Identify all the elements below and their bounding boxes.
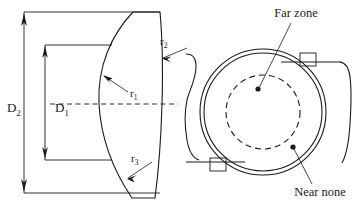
lens-cross-section-group: D2 D1 r1 r2 r3 — [7, 12, 187, 198]
technical-diagram: D2 D1 r1 r2 r3 — [0, 0, 362, 211]
near-none-marker-dot — [290, 144, 295, 149]
r3-arrowhead — [127, 175, 137, 182]
figure-container: D2 D1 r1 r2 r3 — [0, 0, 362, 211]
d2-base: D — [7, 100, 16, 115]
bracket-arc-right — [340, 62, 351, 163]
lens-body-outline — [99, 12, 163, 198]
lens-inner-ring-circle — [204, 53, 322, 171]
dimension-label-d1: D1 — [55, 100, 69, 118]
radius-label-r3: r3 — [131, 152, 139, 167]
r1-arrowhead — [103, 75, 113, 84]
dimension-label-d2: D2 — [7, 100, 21, 118]
r2-arrowhead — [162, 56, 172, 62]
near-none-label: Near none — [294, 185, 346, 199]
r2-subscript: 2 — [164, 41, 168, 50]
r1-subscript: 1 — [134, 93, 138, 102]
d1-subscript: 1 — [64, 108, 68, 118]
r3-leader-line — [128, 162, 152, 178]
bracket-arc-left — [185, 54, 199, 160]
tab-bottom-left-rectangle — [210, 158, 226, 171]
lens-outer-circle — [200, 49, 326, 175]
far-zone-leader-line — [259, 23, 291, 88]
radius-label-r1: r1 — [130, 87, 138, 102]
far-zone-label: Far zone — [274, 6, 318, 20]
radius-label-r2: r2 — [160, 35, 168, 50]
d2-subscript: 2 — [16, 108, 20, 118]
lens-plan-view-group: Far zone Near none — [185, 6, 351, 199]
r3-subscript: 3 — [135, 158, 139, 167]
far-zone-marker-dot — [255, 86, 260, 91]
far-zone-dashed-circle — [226, 75, 300, 149]
d1-base: D — [55, 100, 64, 115]
tab-top-right-rectangle — [300, 53, 316, 66]
